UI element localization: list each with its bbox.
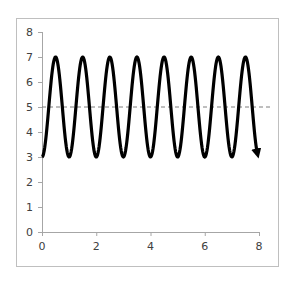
y-tick-label: 5 — [26, 101, 33, 114]
x-tick-label: 6 — [201, 240, 208, 253]
y-tick-label: 7 — [26, 51, 33, 64]
x-tick-label: 0 — [39, 240, 46, 253]
y-tick-label: 1 — [26, 201, 33, 214]
y-tick-label: 8 — [26, 26, 33, 39]
y-tick-label: 2 — [26, 176, 33, 189]
x-tick-label: 2 — [93, 240, 100, 253]
x-tick-label: 4 — [147, 240, 154, 253]
y-axis-tick-labels: 012345678 — [26, 26, 33, 239]
chart: 012345678 02468 — [0, 0, 294, 281]
y-tick-label: 3 — [26, 151, 33, 164]
y-tick-label: 0 — [26, 226, 33, 239]
x-tick-label: 8 — [256, 240, 263, 253]
y-tick-label: 4 — [26, 126, 33, 139]
y-tick-label: 6 — [26, 76, 33, 89]
